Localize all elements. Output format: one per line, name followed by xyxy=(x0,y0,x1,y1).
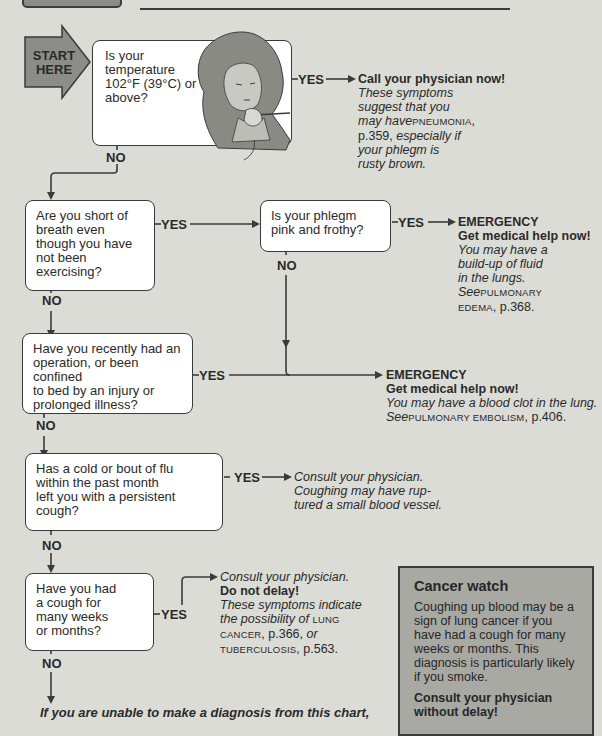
answer-pulmonary-embolism: EMERGENCY Get medical help now! You may … xyxy=(386,368,600,425)
answer-ruptured-vessel: Consult your physician. Coughing may hav… xyxy=(294,470,474,512)
q5-yes-label: YES xyxy=(161,607,187,622)
question-phlegm-pink: Is your phlegm pink and frothy? xyxy=(260,200,391,252)
condition-link-pulmonary-embolism: PULMONARY EMBOLISM xyxy=(408,412,524,423)
answer-pneumonia: Call your physician now! These symptoms … xyxy=(358,72,528,171)
answer-lung-cancer-tb: Consult your physician. Do not delay! Th… xyxy=(220,570,390,657)
cancer-watch-body: Coughing up blood may be a sign of lung … xyxy=(414,600,578,684)
question-text: Is your temperature 102°F (39°C) or abov… xyxy=(105,49,185,105)
cancer-watch-panel: Cancer watch Coughing up blood may be a … xyxy=(398,566,594,736)
q2-yes-label: YES xyxy=(161,217,187,232)
condition-link-pneumonia: PNEUMONIA xyxy=(412,116,471,127)
q5-no-label: NO xyxy=(42,656,62,671)
footer-fallback-text: If you are unable to make a diagnosis fr… xyxy=(40,705,369,720)
q2b-no-label: NO xyxy=(277,258,297,273)
answer-heading: Call your physician now! xyxy=(358,72,528,86)
q1-yes-label: YES xyxy=(298,72,324,87)
question-recent-operation: Have you recently had an operation, or b… xyxy=(22,333,193,414)
q4-yes-label: YES xyxy=(234,470,260,485)
q3-no-label: NO xyxy=(36,418,56,433)
question-cold-or-flu: Has a cold or bout of flu within the pas… xyxy=(25,453,223,531)
q1-no-label: NO xyxy=(106,150,126,165)
condition-link-pulmonary-edema: PULMONARY xyxy=(480,287,542,298)
q3-yes-label: YES xyxy=(199,368,225,383)
q2-no-label: NO xyxy=(42,293,62,308)
question-temperature: Is your temperature 102°F (39°C) or abov… xyxy=(92,40,292,146)
q4-no-label: NO xyxy=(42,538,62,553)
cancer-watch-cta: Consult your physician without delay! xyxy=(414,691,578,719)
cancer-watch-title: Cancer watch xyxy=(414,578,578,594)
answer-pulmonary-edema: EMERGENCY Get medical help now! You may … xyxy=(458,215,598,315)
question-long-cough: Have you had a cough for many weeks or m… xyxy=(25,573,154,651)
start-label-line1: START xyxy=(33,48,75,63)
question-short-of-breath: Are you short of breath even though you … xyxy=(25,200,155,291)
condition-link-lung-cancer: LUNG xyxy=(312,614,339,625)
start-here-label: START HERE xyxy=(30,49,78,77)
q2b-yes-label: YES xyxy=(398,215,424,230)
start-label-line2: HERE xyxy=(36,62,72,77)
condition-link-tuberculosis: TUBERCULOSIS xyxy=(220,644,296,655)
